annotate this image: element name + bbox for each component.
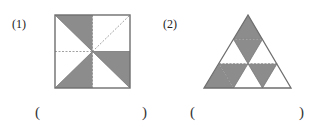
triangle-figure [204,15,291,88]
triangle-shaded-apex [234,15,263,39]
answer-1-close-paren: ) [142,104,147,121]
answer-1-field[interactable] [48,104,140,122]
square-figure [55,15,130,88]
triangle-shaded-row2-inverted [234,39,263,63]
square-dashed-diagonal-upper [93,15,131,52]
answer-2-close-paren: ) [299,104,304,121]
answer-2-field[interactable] [203,104,295,122]
answer-1-open-paren: ( [35,104,40,121]
triangle-shaded-row3-right-inverted [248,64,277,88]
answer-2-open-paren: ( [190,104,195,121]
